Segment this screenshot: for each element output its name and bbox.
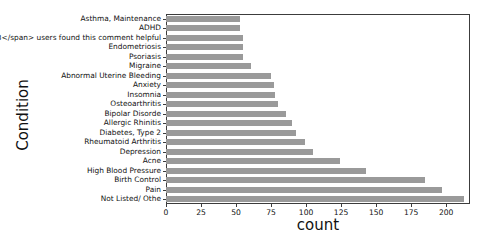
y-axis-tick-label: Asthma, Maintenance [80,14,161,24]
bar [166,168,366,174]
x-axis-tick [376,204,377,207]
y-axis-tick-label: 3</span> users found this comment helpfu… [0,33,161,43]
y-axis-tick-label: Migraine [129,61,161,71]
bar-row: Osteoarthritis [166,100,470,110]
y-axis-tick-label: Rheumatoid Arthritis [84,137,161,147]
y-axis-tick-label: Psoriasis [129,52,161,62]
y-axis-tick-label: ADHD [139,23,161,33]
x-axis-tick [271,204,272,207]
bar [166,25,240,31]
x-axis-tick [236,204,237,207]
bar [166,177,425,183]
bar-row: Migraine [166,62,470,72]
bar [166,139,305,145]
bar [166,101,278,107]
bar-chart-figure: Condition Asthma, MaintenanceADHD3</span… [0,0,487,239]
x-axis-tick [341,204,342,207]
bar-row: High Blood Pressure [166,166,470,176]
bars-container: Asthma, MaintenanceADHD3</span> users fo… [166,14,470,204]
bar [166,35,243,41]
y-axis-tick-label: Bipolar Disorde [104,109,161,119]
y-axis-tick-label: Birth Control [114,175,161,185]
y-axis-tick-label: Insomnia [127,90,161,100]
bar [166,111,286,117]
bar [166,196,464,202]
bar-row: Endometriosis [166,43,470,53]
bar-row: 3</span> users found this comment helpfu… [166,33,470,43]
bar-row: Not Listed/ Othe [166,195,470,205]
bar [166,149,313,155]
bar [166,130,296,136]
bar-row: ADHD [166,24,470,34]
y-axis-tick-label: Diabetes, Type 2 [99,128,161,138]
y-axis-title: Condition [14,40,32,190]
bar-row: Pain [166,185,470,195]
bar-row: Insomnia [166,90,470,100]
x-axis-tick [411,204,412,207]
y-axis-tick-label: Anxiety [133,80,161,90]
x-axis-tick [166,204,167,207]
bar-row: Birth Control [166,176,470,186]
bar-row: Diabetes, Type 2 [166,128,470,138]
bar-row: Psoriasis [166,52,470,62]
bar [166,54,243,60]
y-axis-tick-label: Endometriosis [108,42,161,52]
bar [166,82,274,88]
bar [166,44,243,50]
bar [166,92,275,98]
bar-row: Abnormal Uterine Bleeding [166,71,470,81]
bar-row: Depression [166,147,470,157]
bar-row: Allergic Rhinitis [166,119,470,129]
bar-row: Rheumatoid Arthritis [166,138,470,148]
bar-row: Asthma, Maintenance [166,14,470,24]
y-axis-tick-label: Not Listed/ Othe [101,194,161,204]
bar [166,16,240,22]
bar [166,158,340,164]
x-axis-tick [446,204,447,207]
x-axis-title: count [166,216,470,234]
bar [166,187,442,193]
bar [166,73,271,79]
x-axis-tick [306,204,307,207]
y-axis-tick-label: Pain [146,185,161,195]
bar [166,63,251,69]
bar [166,120,292,126]
bar-row: Anxiety [166,81,470,91]
y-axis-tick-label: Abnormal Uterine Bleeding [61,71,161,81]
x-axis-tick [201,204,202,207]
y-axis-tick-label: Depression [120,147,161,157]
y-axis-tick-label: Acne [143,156,161,166]
bar-row: Acne [166,157,470,167]
y-axis-tick-label: High Blood Pressure [87,166,161,176]
y-axis-tick-label: Allergic Rhinitis [104,118,161,128]
bar-row: Bipolar Disorde [166,109,470,119]
y-axis-tick-label: Osteoarthritis [110,99,161,109]
